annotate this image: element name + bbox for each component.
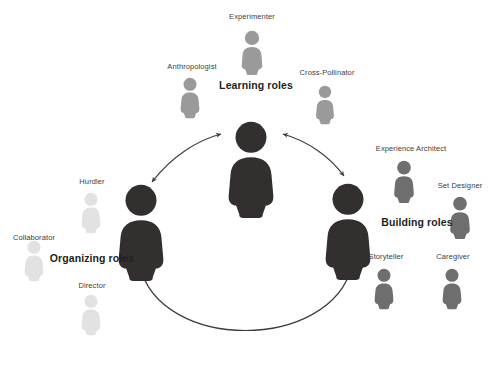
role-figure-cross-pollinator[interactable] — [313, 85, 338, 125]
role-figure-experimenter[interactable] — [238, 30, 267, 76]
person-icon — [220, 120, 282, 219]
person-icon — [78, 294, 104, 336]
role-label-cross-pollinator: Cross-Pollinator — [300, 68, 355, 77]
role-figure-collaborator[interactable] — [21, 240, 47, 282]
person-icon — [177, 77, 203, 119]
person-icon — [439, 268, 465, 310]
diagram-canvas: Learning rolesExperimenterAnthropologist… — [0, 0, 489, 367]
role-figure-hurdler[interactable] — [78, 192, 104, 234]
role-label-experimenter: Experimenter — [229, 12, 275, 21]
role-figure-caregiver[interactable] — [439, 268, 465, 310]
role-label-experience-architect: Experience Architect — [376, 144, 446, 153]
role-label-caregiver: Caregiver — [436, 252, 469, 261]
person-icon — [238, 30, 267, 76]
person-icon — [21, 240, 47, 282]
role-label-storyteller: Storyteller — [369, 252, 404, 261]
person-icon — [313, 85, 338, 125]
hub-figure-learning[interactable] — [220, 120, 282, 219]
role-label-collaborator: Collaborator — [13, 233, 55, 242]
role-figure-storyteller[interactable] — [371, 268, 397, 310]
role-figure-director[interactable] — [78, 294, 104, 336]
role-label-anthropologist: Anthropologist — [167, 62, 216, 71]
group-label-learning: Learning roles — [219, 79, 293, 91]
person-icon — [371, 268, 397, 310]
role-label-hurdler: Hurdler — [79, 177, 104, 186]
role-figure-experience-architect[interactable] — [390, 160, 417, 204]
hub-figure-organizing[interactable] — [110, 183, 172, 282]
person-icon — [110, 183, 172, 282]
person-icon — [317, 182, 379, 281]
learning-building-arrow — [283, 134, 344, 176]
person-icon — [390, 160, 417, 204]
role-figure-anthropologist[interactable] — [177, 77, 203, 119]
hub-figure-building[interactable] — [317, 182, 379, 281]
group-label-building: Building roles — [381, 216, 452, 228]
learning-organizing-arrow — [152, 134, 221, 182]
group-label-organizing: Organizing roles — [50, 252, 134, 264]
role-label-set-designer: Set Designer — [438, 181, 483, 190]
person-icon — [78, 192, 104, 234]
role-label-director: Director — [78, 281, 105, 290]
